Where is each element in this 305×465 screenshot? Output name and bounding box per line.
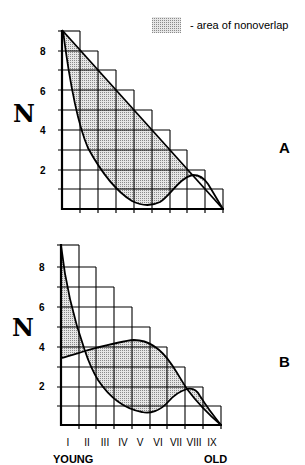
x-tick-label: I <box>67 437 70 448</box>
panel-b: 8 6 4 2 N B I II III IV V VI VII VIII IX… <box>12 244 290 465</box>
panel-a: 8 6 4 2 N A <box>13 30 290 213</box>
y-tick-label: 4 <box>39 342 45 353</box>
y-tick-label: 4 <box>40 125 46 136</box>
y-tick-label: 8 <box>40 46 46 57</box>
y-tick-label: 6 <box>39 302 45 313</box>
x-tick-label: V <box>137 437 144 448</box>
x-end-label-old: OLD <box>204 453 227 465</box>
x-tick-label: II <box>84 437 90 448</box>
y-tick-label: 2 <box>39 381 45 392</box>
panel-label-a: A <box>279 139 290 156</box>
legend-swatch <box>152 17 181 33</box>
figure: - area of nonoverlap <box>0 0 305 465</box>
x-tick-label: III <box>101 437 109 448</box>
y-axis-label: N <box>12 313 34 342</box>
x-tick-labels: I II III IV V VI VII VIII IX <box>67 437 217 448</box>
y-tick-label: 8 <box>39 262 45 273</box>
x-end-label-young: YOUNG <box>53 453 93 465</box>
y-tick-label: 6 <box>40 86 46 97</box>
nonoverlap-area-b-middle <box>85 340 187 413</box>
panel-label-b: B <box>279 353 290 370</box>
legend: - area of nonoverlap <box>152 17 288 33</box>
x-tick-label: VII <box>170 437 182 448</box>
x-tick-label: IX <box>207 437 217 448</box>
x-tick-label: IV <box>118 437 128 448</box>
legend-label: - area of nonoverlap <box>190 19 288 31</box>
y-axis-label: N <box>13 99 35 128</box>
x-tick-label: VIII <box>186 437 201 448</box>
y-tick-label: 2 <box>40 165 46 176</box>
x-tick-label: VI <box>153 437 162 448</box>
